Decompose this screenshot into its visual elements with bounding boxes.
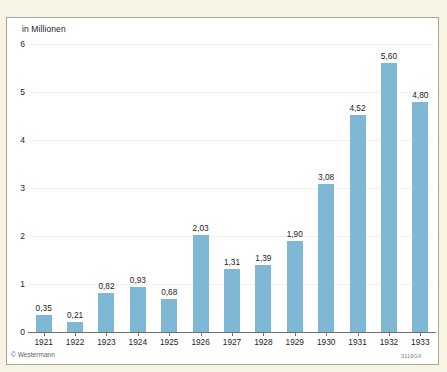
bar-value-label: 5,60 [369, 51, 409, 61]
y-axis-tick-label: 2 [5, 231, 25, 241]
gridline [29, 236, 434, 237]
x-axis-tick-label: 1933 [400, 337, 440, 347]
bar-value-label: 0,21 [55, 310, 95, 320]
bar [224, 269, 240, 332]
bar-value-label: 0,68 [149, 287, 189, 297]
x-axis-tick-mark [232, 332, 233, 336]
x-axis-tick-mark [358, 332, 359, 336]
x-axis-tick-mark [326, 332, 327, 336]
x-axis-tick-mark [138, 332, 139, 336]
y-axis-tick-label: 1 [5, 279, 25, 289]
bar [193, 235, 209, 332]
y-axis-tick-label: 5 [5, 87, 25, 97]
bar [287, 241, 303, 332]
bar-value-label: 1,39 [243, 253, 283, 263]
y-axis-tick-label: 0 [5, 327, 25, 337]
y-axis-tick-label: 6 [5, 39, 25, 49]
copyright-notice: © Westermann [11, 351, 55, 358]
bar-value-label: 1,90 [275, 229, 315, 239]
bar-value-label: 4,80 [400, 90, 440, 100]
y-axis-tick-label: 3 [5, 183, 25, 193]
bar [255, 265, 271, 332]
bar [350, 115, 366, 332]
bar [67, 322, 83, 332]
gridline [29, 140, 434, 141]
x-axis-tick-mark [201, 332, 202, 336]
bar [381, 63, 397, 332]
x-axis-tick-mark [169, 332, 170, 336]
bar [98, 293, 114, 332]
bar [36, 315, 52, 332]
bar [412, 102, 428, 332]
x-axis-tick-mark [295, 332, 296, 336]
gridline [29, 188, 434, 189]
bar [130, 287, 146, 332]
gridline [29, 92, 434, 93]
bar-value-label: 3,08 [306, 172, 346, 182]
bar-value-label: 4,52 [338, 103, 378, 113]
plot-area: 0123456 0,350,210,820,930,682,031,311,39… [0, 0, 447, 372]
x-axis-tick-mark [420, 332, 421, 336]
x-axis-tick-mark [106, 332, 107, 336]
bar [161, 299, 177, 332]
y-axis-tick-label: 4 [5, 135, 25, 145]
bar-value-label: 0,93 [118, 275, 158, 285]
chart-figure: in Millionen 0123456 0,350,210,820,930,6… [0, 0, 447, 372]
x-axis-tick-mark [263, 332, 264, 336]
x-axis-tick-mark [75, 332, 76, 336]
gridline [29, 44, 434, 45]
bar-value-label: 2,03 [181, 223, 221, 233]
bar [318, 184, 334, 332]
x-axis-tick-mark [44, 332, 45, 336]
x-axis-tick-mark [389, 332, 390, 336]
plate-code-label: 3119GX [401, 353, 422, 359]
